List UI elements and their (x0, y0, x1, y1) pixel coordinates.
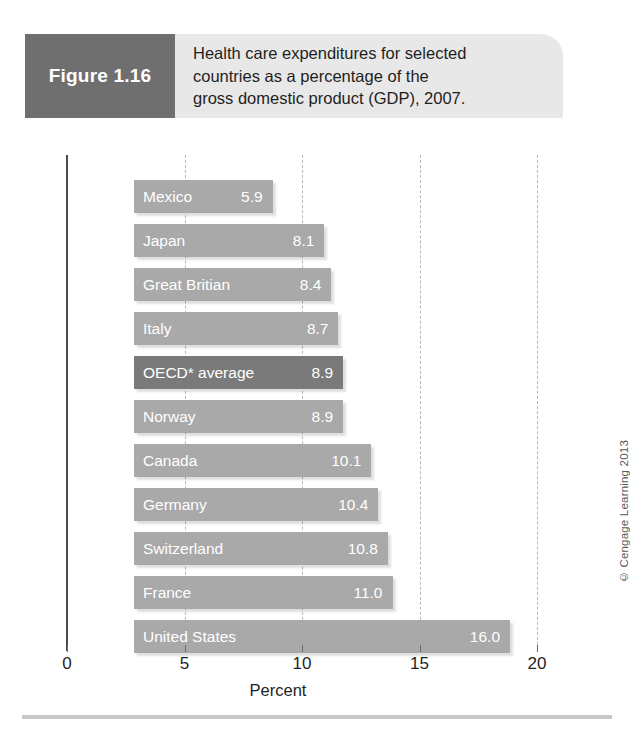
bar-value-label: 11.0 (353, 584, 382, 602)
bar-row: Italy8.7 (134, 312, 338, 345)
gridline (537, 155, 538, 645)
bar-row: Canada10.1 (134, 444, 371, 477)
bar-category-label: OECD* average (143, 364, 254, 382)
bar-row: Norway8.9 (134, 400, 343, 433)
bar-category-label: Italy (143, 320, 171, 338)
bar-value-label: 8.1 (293, 232, 315, 250)
bar-value-label: 8.9 (312, 408, 334, 426)
x-axis-tick-mark (420, 645, 421, 652)
copyright-credit: © Cengage Learning 2013 (618, 440, 630, 583)
bar-row: Germany10.4 (134, 488, 378, 521)
bar-category-label: Germany (143, 496, 207, 514)
bar-value-label: 10.4 (338, 496, 368, 514)
bar-category-label: Norway (143, 408, 196, 426)
bar-row: Great Britian8.4 (134, 268, 331, 301)
bar-value-label: 16.0 (470, 628, 500, 646)
bar-value-label: 8.7 (307, 320, 329, 338)
figure-caption-line-2: countries as a percentage of the (193, 65, 565, 88)
page-divider-rule (22, 715, 612, 719)
bar-category-label: United States (143, 628, 236, 646)
figure-caption-line-3: gross domestic product (GDP), 2007. (193, 87, 565, 110)
bar: Mexico5.9 (134, 180, 273, 213)
bar: Great Britian8.4 (134, 268, 331, 301)
bar-value-label: 10.1 (331, 452, 361, 470)
x-axis-title-text: Percent (250, 681, 307, 700)
bar: Canada10.1 (134, 444, 371, 477)
x-axis-tick-label: 20 (528, 654, 547, 674)
figure-number-label: Figure 1.16 (49, 65, 152, 87)
bar-value-label: 8.9 (312, 364, 334, 382)
bar: Switzerland10.8 (134, 532, 388, 565)
bar-category-label: Canada (143, 452, 197, 470)
bar-value-label: 8.4 (300, 276, 322, 294)
y-axis-line (66, 155, 68, 651)
figure-caption: Health care expenditures for selected co… (193, 42, 565, 110)
x-axis-tick-label: 15 (410, 654, 429, 674)
bar-row: Mexico5.9 (134, 180, 273, 213)
bar-highlighted: OECD* average8.9 (134, 356, 343, 389)
bar-row: OECD* average8.9 (134, 356, 343, 389)
bar: Norway8.9 (134, 400, 343, 433)
bar-row: United States16.0 (134, 620, 510, 653)
x-axis-tick-label: 10 (293, 654, 312, 674)
bar-value-label: 10.8 (348, 540, 378, 558)
bar-category-label: Japan (143, 232, 185, 250)
gridline (420, 155, 421, 645)
bar: Germany10.4 (134, 488, 378, 521)
figure-number-box: Figure 1.16 (25, 34, 175, 118)
x-axis-tick-label: 0 (62, 654, 71, 674)
bar-row: Japan8.1 (134, 224, 324, 257)
bar: Japan8.1 (134, 224, 324, 257)
x-axis-tick-label: 5 (180, 654, 189, 674)
x-axis-tick-mark (302, 645, 303, 652)
bar-category-label: Switzerland (143, 540, 223, 558)
bar-category-label: Mexico (143, 188, 192, 206)
bar-chart: Mexico5.9Japan8.1Great Britian8.4Italy8.… (0, 130, 634, 690)
x-axis-tick-mark (537, 645, 538, 652)
bar: France11.0 (134, 576, 393, 609)
bar-category-label: Great Britian (143, 276, 230, 294)
figure-caption-line-1: Health care expenditures for selected (193, 42, 565, 65)
bar-value-label: 5.9 (241, 188, 263, 206)
figure-header: Figure 1.16 Health care expenditures for… (25, 34, 563, 118)
bar-category-label: France (143, 584, 191, 602)
x-axis-tick-mark (185, 645, 186, 652)
plot-area: Mexico5.9Japan8.1Great Britian8.4Italy8.… (67, 155, 537, 645)
bar: Italy8.7 (134, 312, 338, 345)
bar-row: France11.0 (134, 576, 393, 609)
x-axis-title: Percent (0, 681, 634, 700)
x-axis-tick-mark (67, 645, 68, 652)
bar: United States16.0 (134, 620, 510, 653)
bar-row: Switzerland10.8 (134, 532, 388, 565)
